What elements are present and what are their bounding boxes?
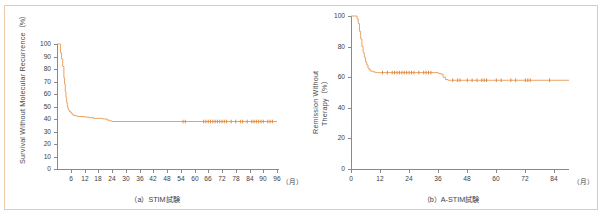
- x-tick-mark: [153, 170, 154, 173]
- y-tick-label: 40: [35, 116, 51, 123]
- y-tick-mark: [54, 82, 57, 83]
- y-tick-mark: [348, 47, 351, 48]
- y-tick-label: 90: [35, 54, 51, 61]
- x-tick-mark: [112, 170, 113, 173]
- x-tick-mark: [277, 170, 278, 173]
- x-tick-mark: [195, 170, 196, 173]
- y-tick-mark: [54, 107, 57, 108]
- x-tick-mark: [525, 170, 526, 173]
- y-tick-mark: [348, 138, 351, 139]
- y-tick-label: 40: [329, 105, 345, 112]
- caption-a: （a）STIM試験: [5, 194, 305, 204]
- x-axis-unit-a: （月）: [282, 179, 303, 186]
- y-tick-label: 100: [329, 13, 345, 20]
- y-tick-mark: [54, 44, 57, 45]
- y-tick-mark: [348, 108, 351, 109]
- y-tick-mark: [348, 77, 351, 78]
- y-tick-label: 70: [35, 79, 51, 86]
- y-tick-label: 80: [329, 44, 345, 51]
- x-tick-mark: [222, 170, 223, 173]
- y-tick-mark: [54, 94, 57, 95]
- panel-stim: Survival Without Molecular Recurrence（%）…: [5, 6, 305, 211]
- panel-a-stim: Remission WithoutTherapy（%） 020406080100…: [303, 6, 599, 211]
- x-tick-label: 72: [517, 176, 533, 183]
- y-tick-label: 60: [329, 74, 345, 81]
- x-tick-mark: [554, 170, 555, 173]
- figure-frame: Survival Without Molecular Recurrence（%）…: [4, 5, 598, 210]
- y-tick-mark: [54, 69, 57, 70]
- x-axis-unit-b: （月）: [573, 179, 594, 186]
- y-tick-label: 30: [35, 129, 51, 136]
- y-tick-label: 100: [35, 41, 51, 48]
- x-tick-label: 60: [488, 176, 504, 183]
- x-tick-mark: [85, 170, 86, 173]
- x-tick-mark: [208, 170, 209, 173]
- x-tick-mark: [263, 170, 264, 173]
- y-tick-mark: [54, 119, 57, 120]
- y-tick-label: 20: [35, 141, 51, 148]
- x-tick-mark: [181, 170, 182, 173]
- x-tick-mark: [71, 170, 72, 173]
- x-tick-label: 24: [401, 176, 417, 183]
- km-survival-curve: [57, 44, 277, 122]
- x-tick-mark: [98, 170, 99, 173]
- y-tick-mark: [54, 169, 57, 170]
- y-tick-label: 20: [329, 135, 345, 142]
- y-tick-mark: [54, 132, 57, 133]
- x-tick-label: 84: [546, 176, 562, 183]
- km-survival-curve: [351, 16, 569, 80]
- x-tick-mark: [250, 170, 251, 173]
- y-tick-label: 0: [35, 166, 51, 173]
- x-tick-mark: [409, 170, 410, 173]
- x-tick-mark: [167, 170, 168, 173]
- x-tick-mark: [140, 170, 141, 173]
- x-tick-mark: [438, 170, 439, 173]
- y-tick-label: 60: [35, 91, 51, 98]
- x-tick-label: 48: [459, 176, 475, 183]
- x-tick-label: 36: [430, 176, 446, 183]
- x-tick-mark: [380, 170, 381, 173]
- caption-b: （b）A-STIM試験: [303, 194, 599, 204]
- x-tick-mark: [236, 170, 237, 173]
- y-tick-label: 0: [329, 166, 345, 173]
- y-tick-mark: [54, 57, 57, 58]
- x-tick-mark: [126, 170, 127, 173]
- x-tick-label: 12: [372, 176, 388, 183]
- y-tick-label: 10: [35, 154, 51, 161]
- x-tick-label: 0: [343, 176, 359, 183]
- y-tick-mark: [54, 157, 57, 158]
- plot-area-a: 0102030405060708090100 61218243036424854…: [5, 6, 305, 211]
- x-tick-mark: [351, 170, 352, 173]
- plot-area-b: 020406080100 012243648607284 （月）: [303, 6, 599, 211]
- y-tick-label: 50: [35, 104, 51, 111]
- x-tick-mark: [496, 170, 497, 173]
- y-tick-mark: [348, 16, 351, 17]
- x-tick-mark: [467, 170, 468, 173]
- y-tick-label: 80: [35, 66, 51, 73]
- y-tick-mark: [54, 144, 57, 145]
